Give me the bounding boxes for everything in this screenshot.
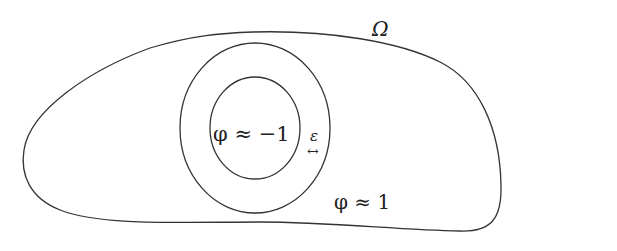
domain-label: Ω bbox=[371, 17, 389, 41]
inner-region-label: φ ≈ −1 bbox=[213, 122, 290, 146]
interface-width-arrow-icon: ↔ bbox=[307, 143, 319, 159]
outer-region-label: φ ≈ 1 bbox=[334, 190, 390, 214]
diagram-canvas: Ω φ ≈ −1 ε ↔ φ ≈ 1 bbox=[0, 0, 617, 251]
